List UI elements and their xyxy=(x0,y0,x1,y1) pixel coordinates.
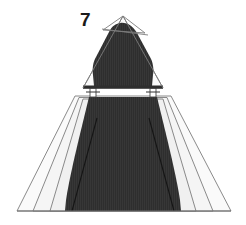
geometric-figure-diagram xyxy=(0,0,246,225)
upper-silhouette-group xyxy=(83,23,163,89)
figure-container: 7 xyxy=(0,0,246,225)
upper-base-bar xyxy=(83,86,163,89)
figure-number-label: 7 xyxy=(80,10,91,30)
